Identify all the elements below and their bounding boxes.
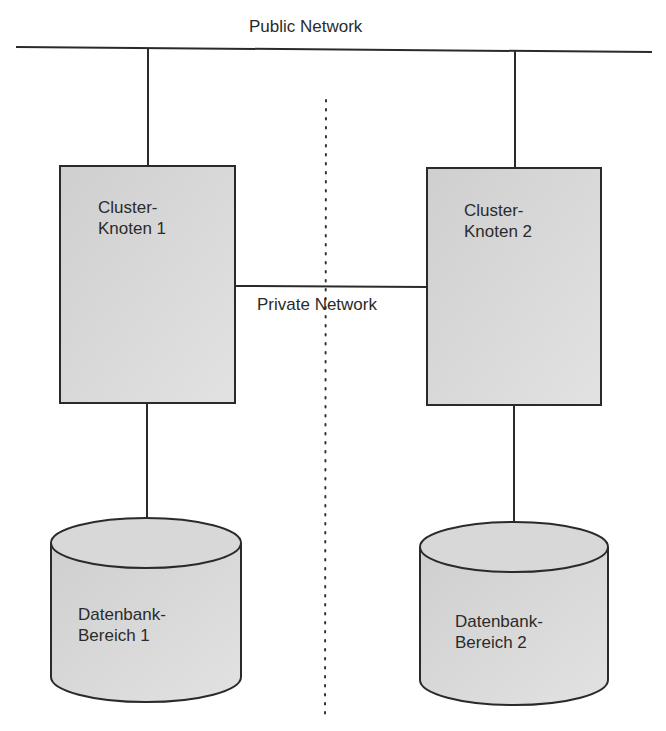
cluster-node-1-label-line1: Cluster- [98, 197, 158, 218]
database-1-label-line2: Bereich 1 [78, 625, 150, 646]
private-network-line [235, 286, 427, 287]
cluster-node-2-label-line2: Knoten 2 [464, 221, 532, 242]
separator-dotted-line [325, 100, 326, 715]
public-network-line [16, 47, 652, 52]
database-2-label-line2: Bereich 2 [455, 632, 527, 653]
private-network-label: Private Network [257, 294, 377, 315]
cluster-node-1-label-line2: Knoten 1 [98, 218, 166, 239]
cluster-node-2-label-line1: Cluster- [464, 200, 524, 221]
database-1-label-line1: Datenbank- [78, 604, 166, 625]
database-2-label-line1: Datenbank- [455, 611, 543, 632]
public-network-label: Public Network [249, 16, 362, 37]
